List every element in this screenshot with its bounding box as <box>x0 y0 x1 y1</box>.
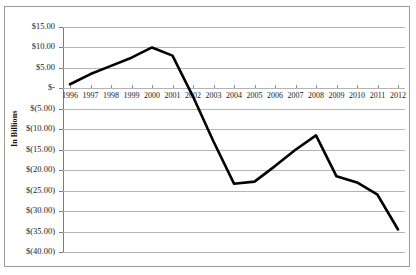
gridline <box>63 252 405 253</box>
y-axis-label: $(5.00) <box>1 104 55 113</box>
y-axis-label: $(15.00) <box>1 145 55 154</box>
data-series-line <box>63 27 405 252</box>
y-axis-label: $(10.00) <box>1 124 55 133</box>
plot-area: $15.00$10.00$5.00$-$(5.00)$(10.00)$(15.0… <box>63 27 405 252</box>
y-axis-label: $(30.00) <box>1 206 55 215</box>
y-axis-label: $5.00 <box>1 63 55 72</box>
y-axis-tick <box>59 252 63 253</box>
y-axis-label: $(20.00) <box>1 165 55 174</box>
chart-title <box>0 0 416 5</box>
y-axis-label: $15.00 <box>1 22 55 31</box>
chart-frame: In Billions $15.00$10.00$5.00$-$(5.00)$(… <box>4 6 410 267</box>
y-axis-label: $(35.00) <box>1 227 55 236</box>
y-axis-label: $(25.00) <box>1 186 55 195</box>
y-axis-label: $10.00 <box>1 42 55 51</box>
y-axis-label: $- <box>1 83 55 92</box>
y-axis-label: $(40.00) <box>1 247 55 256</box>
